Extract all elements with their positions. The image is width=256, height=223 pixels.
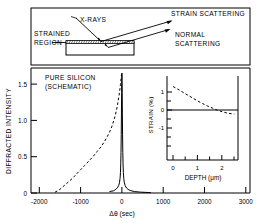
main-chart-ytick-1_0: 1.0 (18, 117, 27, 124)
xrays-leader-line (71, 17, 77, 19)
inset-ytick-0: 0 (161, 107, 165, 113)
inset-xtick-2: 2 (220, 165, 224, 171)
main-chart-ytick-0: 0 (23, 190, 27, 197)
normal-scattering-ray (108, 30, 169, 48)
main-chart-ylabel: DIFFRACTED INTENSITY (5, 88, 12, 174)
inset-xtick-0: 0 (171, 165, 175, 171)
main-chart-annotation-line1: PURE SILICON (45, 74, 96, 81)
main-chart-y-ticks (31, 84, 37, 193)
label-xrays: X-RAYS (80, 16, 106, 23)
label-strained-region-line2: REGION (34, 39, 62, 46)
main-chart-xtick--2000: -2000 (31, 198, 48, 205)
main-chart-xtick-0: 0 (120, 198, 124, 205)
strain-scattering-ray (101, 21, 171, 42)
main-chart-xtick-1000: 1000 (156, 198, 171, 205)
main-chart-xtick-2000: 2000 (197, 198, 212, 205)
figure-canvas: X-RAYS STRAINED REGION STRAIN SCATTERING… (0, 0, 256, 223)
inset-chart-strain-depth: 1 0 -1 0 1 2 DEPTH (μm) STRAIN (%) (147, 76, 238, 182)
scatter-origin-marker (105, 44, 109, 48)
main-chart-ytick-0_5: 0.5 (18, 153, 27, 160)
normal-scattering-arrowhead (165, 29, 171, 33)
label-strained-region-line1: STRAINED (34, 30, 70, 37)
sample-substrate (66, 42, 134, 55)
inset-y-ticks (167, 92, 172, 146)
label-strain-scattering: STRAIN SCATTERING (171, 10, 245, 17)
series-pure-silicon-solid (110, 73, 151, 193)
label-normal-scattering-line2: SCATTERING (175, 40, 221, 47)
main-chart-ytick-1_5: 1.5 (18, 81, 27, 88)
main-chart-annotation-line2: (SCHEMATIC) (45, 83, 92, 91)
figure-xray-diffraction: X-RAYS STRAINED REGION STRAIN SCATTERING… (0, 0, 256, 223)
label-normal-scattering-line1: NORMAL (175, 31, 205, 38)
main-chart-xtick--1000: -1000 (72, 198, 89, 205)
inset-xtick-1: 1 (196, 165, 200, 171)
main-chart-xlabel: Δθ (sec) (109, 210, 134, 218)
inset-x-ticks (173, 155, 234, 160)
main-chart-rocking-curve: 0 0.5 1.0 1.5 -2000 -1000 0 1000 2000 30… (5, 68, 253, 218)
top-panel-geometry-diagram: X-RAYS STRAINED REGION STRAIN SCATTERING… (31, 8, 250, 65)
inset-ytick--1: -1 (159, 125, 165, 131)
inset-xlabel: DEPTH (μm) (185, 174, 222, 182)
main-chart-xtick-3000: 3000 (239, 198, 254, 205)
strain-scattering-arrowhead (167, 21, 173, 25)
inset-ylabel: STRAIN (%) (147, 96, 154, 133)
inset-ytick-1: 1 (161, 89, 165, 95)
